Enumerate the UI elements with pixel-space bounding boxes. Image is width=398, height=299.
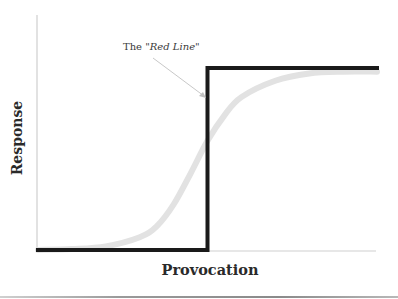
annotation-emphasis: "Red Line" [145, 41, 199, 52]
annotation-label: The "Red Line" [123, 41, 200, 52]
bottom-rule [0, 296, 398, 298]
step-line [38, 68, 377, 250]
annotation-arrow [153, 58, 204, 96]
chart: The "Red Line" Response Provocation [0, 0, 398, 299]
x-axis-label: Provocation [162, 261, 259, 278]
y-axis-label: Response [9, 101, 25, 176]
annotation-prefix: The [123, 41, 145, 52]
